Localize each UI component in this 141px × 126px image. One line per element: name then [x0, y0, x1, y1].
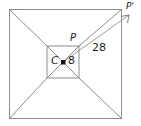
label-center-c: C: [51, 55, 59, 66]
geometry-figure: C 8 P P' 28: [0, 0, 141, 126]
label-point-p: P: [70, 33, 76, 43]
edge-bottom-left: [10, 78, 48, 119]
center-point-marker: [61, 60, 66, 65]
label-dimension-28: 28: [92, 42, 106, 53]
label-inner-length: 8: [68, 55, 75, 66]
edge-top-left: [10, 10, 48, 47]
label-point-p-prime: P': [126, 2, 134, 11]
edge-bottom-right: [79, 78, 122, 119]
